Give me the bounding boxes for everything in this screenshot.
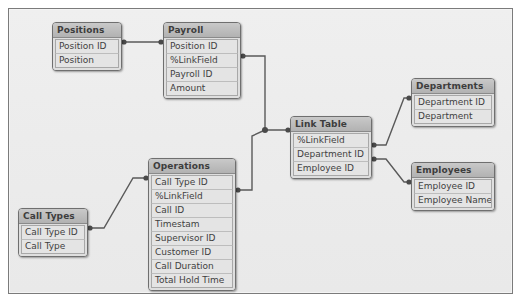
- field-row[interactable]: Position ID: [55, 39, 119, 54]
- field-row[interactable]: Position ID: [166, 39, 238, 54]
- field-row[interactable]: Department ID: [293, 147, 369, 162]
- field-list: Position ID Position: [53, 38, 121, 70]
- field-row[interactable]: %LinkField: [151, 189, 233, 204]
- table-title: Operations: [149, 159, 235, 174]
- table-departments[interactable]: Departments Department ID Department: [411, 78, 495, 127]
- field-row[interactable]: Department: [414, 109, 492, 124]
- table-employees[interactable]: Employees Employee ID Employee Name: [411, 162, 495, 211]
- field-row[interactable]: Payroll ID: [166, 67, 238, 82]
- field-row[interactable]: Amount: [166, 81, 238, 96]
- field-list: Department ID Department: [412, 94, 494, 126]
- field-list: Call Type ID Call Type: [19, 224, 87, 256]
- table-title: Positions: [53, 23, 121, 38]
- table-positions[interactable]: Positions Position ID Position: [52, 22, 122, 71]
- field-row[interactable]: Timestam: [151, 217, 233, 232]
- field-row[interactable]: Call Type: [21, 239, 85, 254]
- field-list: Employee ID Employee Name: [412, 178, 494, 210]
- field-row[interactable]: Call Type ID: [151, 175, 233, 190]
- table-call-types[interactable]: Call Types Call Type ID Call Type: [18, 208, 88, 257]
- table-title: Departments: [412, 79, 494, 94]
- table-title: Employees: [412, 163, 494, 178]
- field-list: Call Type ID %LinkField Call ID Timestam…: [149, 174, 235, 290]
- field-row[interactable]: Supervisor ID: [151, 231, 233, 246]
- table-title: Payroll: [164, 23, 240, 38]
- field-row[interactable]: Employee ID: [414, 179, 492, 194]
- field-row[interactable]: Department ID: [414, 95, 492, 110]
- table-operations[interactable]: Operations Call Type ID %LinkField Call …: [148, 158, 236, 291]
- field-row[interactable]: Employee ID: [293, 161, 369, 176]
- field-row[interactable]: Call Duration: [151, 259, 233, 274]
- table-payroll[interactable]: Payroll Position ID %LinkField Payroll I…: [163, 22, 241, 99]
- field-row[interactable]: Total Hold Time: [151, 273, 233, 288]
- field-row[interactable]: %LinkField: [166, 53, 238, 68]
- field-row[interactable]: Call ID: [151, 203, 233, 218]
- diagram-canvas: Positions Position ID Position Payroll P…: [0, 0, 523, 306]
- field-row[interactable]: Customer ID: [151, 245, 233, 260]
- field-list: Position ID %LinkField Payroll ID Amount: [164, 38, 240, 98]
- field-row[interactable]: Position: [55, 53, 119, 68]
- table-link-table[interactable]: Link Table %LinkField Department ID Empl…: [290, 116, 372, 179]
- table-title: Call Types: [19, 209, 87, 224]
- field-row[interactable]: Call Type ID: [21, 225, 85, 240]
- field-row[interactable]: %LinkField: [293, 133, 369, 148]
- field-list: %LinkField Department ID Employee ID: [291, 132, 371, 178]
- field-row[interactable]: Employee Name: [414, 193, 492, 208]
- table-title: Link Table: [291, 117, 371, 132]
